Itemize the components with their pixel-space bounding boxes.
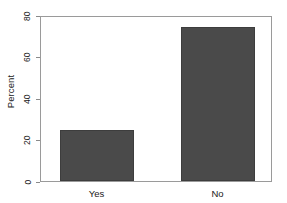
y-tick-label-60: 60 <box>20 50 36 64</box>
y-axis-title-text: Percent <box>6 74 17 107</box>
y-tick-text-40: 40 <box>24 94 33 103</box>
y-tick-text-20: 20 <box>24 135 33 144</box>
plot-area <box>40 16 272 182</box>
bar-yes[interactable] <box>60 130 134 181</box>
y-tick-label-0: 0 <box>20 175 36 189</box>
bar-chart: Percent 80 60 40 20 0 Yes No <box>0 0 287 203</box>
y-tick-label-40: 40 <box>20 92 36 106</box>
y-tick-label-20: 20 <box>20 133 36 147</box>
bar-no[interactable] <box>181 27 255 181</box>
y-tick-text-60: 60 <box>24 52 33 61</box>
y-axis-title: Percent <box>0 0 22 182</box>
y-tick-mark-0 <box>36 182 40 183</box>
y-tick-label-80: 80 <box>20 9 36 23</box>
y-tick-text-80: 80 <box>24 11 33 20</box>
x-tick-label-yes: Yes <box>59 186 134 200</box>
x-tick-label-no: No <box>180 186 255 200</box>
y-tick-text-0: 0 <box>24 180 33 185</box>
